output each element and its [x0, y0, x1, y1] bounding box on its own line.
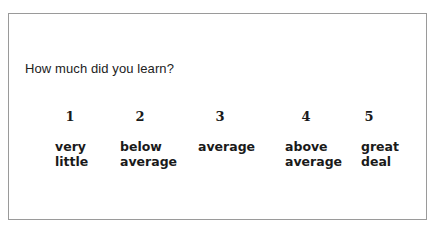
scale-value-5: 5 — [364, 109, 373, 124]
scale-label-2-line-1: below — [120, 139, 177, 154]
scale-label-4-line-1: above — [285, 139, 342, 154]
scale-label-1: very little — [55, 139, 88, 169]
scale-value-4: 4 — [301, 109, 310, 124]
scale-label-3-line-1: average — [198, 139, 255, 154]
scale-value-1: 1 — [65, 109, 74, 124]
scale-value-3: 3 — [215, 109, 224, 124]
scale-label-5-line-1: great — [361, 139, 399, 154]
scale-label-5: great deal — [361, 139, 399, 169]
scale-label-4: above average — [285, 139, 342, 169]
scale-label-3: average — [198, 139, 255, 154]
scale-value-2: 2 — [135, 109, 144, 124]
question-text: How much did you learn? — [25, 61, 174, 76]
scale-label-1-line-1: very — [55, 139, 88, 154]
scale-label-1-line-2: little — [55, 154, 88, 169]
scale-label-4-line-2: average — [285, 154, 342, 169]
scale-label-2-line-2: average — [120, 154, 177, 169]
scale-label-5-line-2: deal — [361, 154, 399, 169]
scale-label-2: below average — [120, 139, 177, 169]
